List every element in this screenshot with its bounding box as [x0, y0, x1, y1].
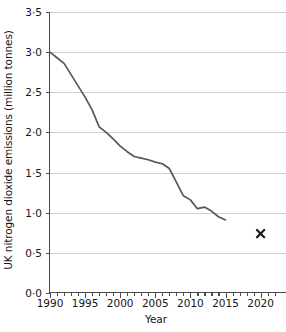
chart-figure: UK nitrogen dioxide emissions (million t… — [0, 0, 286, 332]
data-layer — [0, 0, 286, 332]
target-marker — [257, 230, 264, 237]
emissions-line — [50, 52, 226, 220]
